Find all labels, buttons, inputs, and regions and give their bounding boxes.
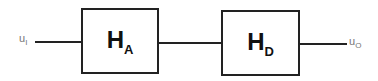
block-ha: HA	[81, 8, 159, 74]
connecting-wire	[158, 42, 223, 44]
input-wire	[35, 41, 83, 43]
output-signal-label: uO	[349, 35, 361, 50]
block-hd: HD	[221, 10, 300, 76]
block-hd-label: HD	[247, 28, 274, 59]
block-ha-label: HA	[107, 26, 134, 57]
output-wire	[299, 43, 347, 45]
input-signal-label: uI	[19, 32, 27, 47]
